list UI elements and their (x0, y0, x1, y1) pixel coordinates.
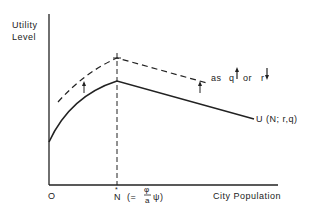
q-up-arrow-icon (235, 67, 239, 79)
shift-label-as: as (211, 73, 222, 83)
shift-label-or: or (243, 73, 252, 83)
y-axis-label-line2: Level (12, 32, 36, 42)
curve-label: U (N; r,q) (256, 114, 298, 124)
up-arrow-icon-right (198, 81, 202, 93)
shift-label-q: q (229, 73, 235, 83)
peak-formula-suffix: ψ) (153, 192, 163, 202)
x-axis-label: City Population (213, 191, 281, 201)
peak-formula-denominator: a (145, 196, 150, 205)
up-arrow-icon-left (82, 81, 86, 93)
diagram-canvas (0, 0, 316, 222)
peak-formula-prefix: (= (127, 192, 136, 202)
r-down-arrow-icon (265, 68, 269, 80)
utility-curve (49, 81, 254, 142)
origin-label: O (48, 191, 56, 201)
peak-label: N (114, 192, 121, 202)
shifted-utility-curve (58, 58, 207, 102)
shift-label-r: r (261, 73, 265, 83)
peak-formula-numerator: φ (144, 185, 150, 194)
y-axis-label-line1: Utility (12, 20, 38, 30)
